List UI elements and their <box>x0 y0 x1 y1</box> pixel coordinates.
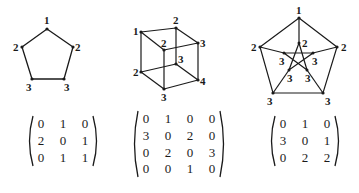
pentagon-vertices <box>20 27 74 80</box>
cube-label-bottom-front: 3 <box>161 91 167 103</box>
left-paren-icon <box>268 115 276 167</box>
pentagon-label-left: 2 <box>13 41 19 53</box>
petersen-label-inner-bl: 3 <box>287 72 293 84</box>
petersen-label-inner-br: 3 <box>305 72 311 84</box>
petersen-graph <box>260 18 337 93</box>
pentagon-label-br: 3 <box>64 81 70 93</box>
pentagon-label-right: 2 <box>75 41 81 53</box>
cube-label-bottom-left: 2 <box>133 66 139 78</box>
pentagon-matrix: 010 201 011 <box>26 115 100 167</box>
petersen-label-inner-top: 2 <box>302 37 308 49</box>
petersen-label-top: 1 <box>296 4 302 16</box>
cube-label-bottom-back: 3 <box>178 53 184 65</box>
right-paren-icon <box>219 110 227 178</box>
cube-label-1: 1 <box>133 25 139 37</box>
petersen-label-br: 3 <box>325 95 331 107</box>
petersen-matrix: 010 301 022 <box>268 115 342 167</box>
petersen-label-inner-left: 3 <box>279 55 285 67</box>
right-paren-icon <box>334 115 342 167</box>
petersen-label-left: 2 <box>251 41 257 53</box>
cube-label-top-right: 3 <box>200 37 206 49</box>
cube-label-top-front: 2 <box>161 37 167 49</box>
petersen-label-bl: 3 <box>267 95 273 107</box>
pentagon-label-bl: 3 <box>26 81 32 93</box>
right-paren-icon <box>92 115 100 167</box>
cube-label-top-back: 2 <box>173 14 179 26</box>
cube-label-bottom-right: 4 <box>200 75 206 87</box>
pentagon-label-top: 1 <box>44 14 50 26</box>
cube-matrix: 0100 3020 0203 0010 <box>131 110 227 178</box>
cube-vertices <box>139 26 199 90</box>
pentagon-graph <box>22 29 73 79</box>
left-paren-icon <box>26 115 34 167</box>
petersen-label-inner-right: 3 <box>312 55 318 67</box>
petersen-label-right: 2 <box>341 41 347 53</box>
cube-graph <box>141 28 198 89</box>
left-paren-icon <box>131 110 139 178</box>
